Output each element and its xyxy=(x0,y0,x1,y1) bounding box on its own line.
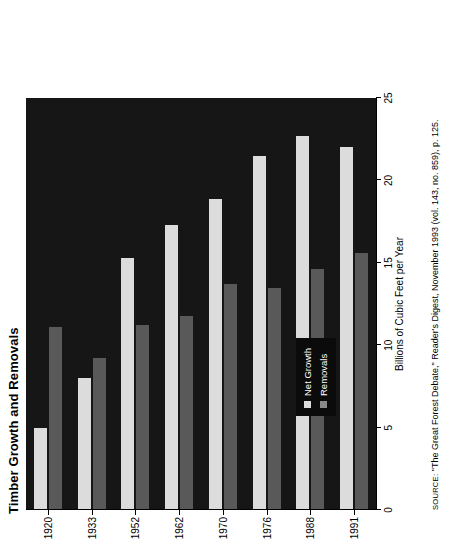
chart-legend: Net GrowthRemovals xyxy=(296,338,336,416)
category-tick-label: 1988 xyxy=(305,517,316,539)
value-tick xyxy=(376,97,381,98)
bar-group xyxy=(245,98,289,510)
source-label: SOURCE: xyxy=(431,474,440,510)
bar-group xyxy=(201,98,245,510)
bar-net-growth xyxy=(209,199,222,510)
value-tick-label: 5 xyxy=(383,425,394,431)
category-tick xyxy=(92,510,93,515)
legend-item: Removals xyxy=(318,348,329,408)
category-tick-label: 1933 xyxy=(86,517,97,539)
bar-group xyxy=(114,98,158,510)
bar-removals xyxy=(49,327,62,510)
category-tick-label: 1991 xyxy=(349,517,360,539)
category-tick xyxy=(310,510,311,515)
legend-label: Removals xyxy=(318,354,329,396)
bar-removals xyxy=(224,284,237,510)
category-tick xyxy=(48,510,49,515)
category-tick xyxy=(267,510,268,515)
bar-net-growth xyxy=(253,156,266,510)
bar-group xyxy=(289,98,333,510)
bar-net-growth xyxy=(340,147,353,510)
category-tick-label: 1952 xyxy=(130,517,141,539)
value-tick xyxy=(376,262,381,263)
bar-removals xyxy=(268,288,281,510)
bar-net-growth xyxy=(78,378,91,510)
value-axis-title: Billions of Cubic Feet per Year xyxy=(394,98,405,510)
bar-group xyxy=(332,98,376,510)
value-tick-label: 20 xyxy=(383,175,394,186)
category-axis: 19201933195219621970197619881991 xyxy=(26,509,377,510)
value-tick xyxy=(376,509,381,510)
value-tick-label: 25 xyxy=(383,92,394,103)
category-tick xyxy=(223,510,224,515)
category-tick-label: 1962 xyxy=(174,517,185,539)
source-citation: "The Great Forest Debate," Reader's Dige… xyxy=(430,119,440,473)
category-tick xyxy=(354,510,355,515)
legend-item: Net Growth xyxy=(302,348,313,408)
legend-swatch-icon xyxy=(304,401,311,408)
bar-group xyxy=(26,98,70,510)
value-tick-label: 10 xyxy=(383,340,394,351)
category-tick-label: 1976 xyxy=(261,517,272,539)
bar-net-growth xyxy=(296,136,309,510)
value-tick xyxy=(376,179,381,180)
category-tick xyxy=(135,510,136,515)
category-tick xyxy=(179,510,180,515)
bar-net-growth xyxy=(165,225,178,510)
source-note: SOURCE: "The Great Forest Debate," Reade… xyxy=(430,119,440,510)
value-tick-label: 15 xyxy=(383,257,394,268)
bar-net-growth xyxy=(34,428,47,510)
plot-area xyxy=(26,98,376,510)
category-tick-label: 1920 xyxy=(42,517,53,539)
value-axis: 0510152025 xyxy=(376,98,377,510)
bar-group xyxy=(70,98,114,510)
category-tick-label: 1970 xyxy=(217,517,228,539)
bar-group xyxy=(157,98,201,510)
value-tick xyxy=(376,427,381,428)
value-tick xyxy=(376,344,381,345)
bar-removals xyxy=(136,325,149,510)
bar-net-growth xyxy=(121,258,134,510)
value-tick-label: 0 xyxy=(383,507,394,513)
legend-label: Net Growth xyxy=(302,348,313,396)
bar-removals xyxy=(355,253,368,510)
legend-swatch-icon xyxy=(320,401,327,408)
bar-removals xyxy=(180,316,193,510)
bar-removals xyxy=(93,358,106,510)
chart-title: Timber Growth and Removals xyxy=(6,327,21,514)
